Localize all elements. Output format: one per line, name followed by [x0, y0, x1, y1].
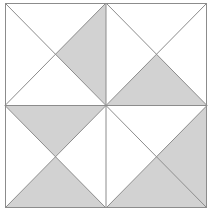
- figure-container: [0, 0, 211, 215]
- triangle-grid-diagram: [0, 0, 211, 215]
- line-layer: [5, 3, 207, 208]
